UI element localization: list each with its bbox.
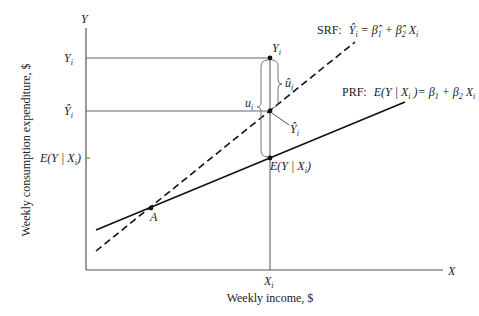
srf-line — [96, 42, 355, 251]
y-tick-yhat: Ŷi — [64, 104, 73, 120]
y-tick-eyx: E(Y | Xi) — [39, 151, 81, 167]
point-yi — [268, 56, 273, 61]
prf-line — [96, 102, 405, 230]
y-axis-title: Weekly consumption expenditure, $ — [19, 64, 33, 237]
srf-equation: SRF: Ŷi = β̂1 + β̂2 Xi — [317, 23, 418, 40]
label-point-yi: Yi — [272, 41, 281, 57]
label-yhat-pointer: Ŷi — [290, 122, 299, 138]
x-tick-xi: Xi — [263, 274, 274, 290]
prf-equation: PRF: E(Y | Xi )= β1 + β2 Xi — [342, 85, 475, 102]
y-tick-yi: Yi — [64, 51, 73, 67]
yhat-pointer — [272, 113, 289, 125]
label-point-a: A — [149, 210, 158, 224]
regression-diagram: Y X Weekly consumption expenditure, $ We… — [0, 0, 479, 316]
label-eyx-point: E(Y | Xi) — [269, 159, 311, 175]
x-axis-label: X — [447, 264, 456, 278]
label-u: ui — [245, 96, 253, 112]
x-axis-title: Weekly income, $ — [227, 291, 314, 305]
u-bracket — [257, 60, 268, 157]
y-axis-label: Y — [81, 12, 89, 26]
uhat-bracket — [272, 60, 282, 108]
point-yhat — [268, 109, 273, 114]
label-uhat: ûi — [285, 76, 293, 92]
